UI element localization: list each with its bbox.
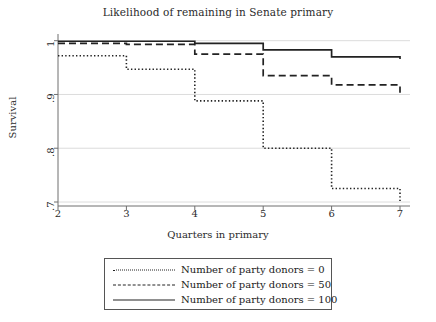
survival-chart-figure: Likelihood of remaining in Senate primar… [0, 0, 436, 322]
x-tick-label-3: 3 [116, 208, 136, 219]
legend-label: Number of party donors = 100 [175, 294, 337, 305]
legend-item-donors-50: Number of party donors = 50 [105, 277, 331, 292]
series-line-dotted [58, 56, 400, 201]
axis-ticks [54, 41, 400, 210]
legend-item-donors-0: Number of party donors = 0 [105, 262, 331, 277]
axis-lines [58, 34, 410, 206]
legend-swatch-dashed-icon [113, 280, 175, 290]
legend-item-donors-100: Number of party donors = 100 [105, 292, 331, 307]
legend-label: Number of party donors = 50 [175, 279, 331, 290]
x-tick-label-6: 6 [322, 208, 342, 219]
y-tick-label-.7: .7 [45, 202, 56, 226]
y-tick-label-.9: .9 [45, 94, 56, 118]
x-tick-label-4: 4 [185, 208, 205, 219]
series-line-dashed [58, 43, 400, 92]
legend-swatch-solid-icon [113, 295, 175, 305]
chart-legend: Number of party donors = 0 Number of par… [104, 258, 332, 310]
x-axis-label: Quarters in primary [0, 229, 436, 240]
y-axis-label: Survival [7, 88, 18, 148]
x-tick-label-5: 5 [253, 208, 273, 219]
gridlines [58, 41, 410, 202]
legend-label: Number of party donors = 0 [175, 264, 325, 275]
legend-swatch-dotted-icon [113, 265, 175, 275]
x-tick-label-7: 7 [390, 208, 410, 219]
y-tick-label-1: 1 [45, 40, 56, 64]
y-tick-label-.8: .8 [45, 148, 56, 172]
data-series-group [58, 41, 400, 201]
